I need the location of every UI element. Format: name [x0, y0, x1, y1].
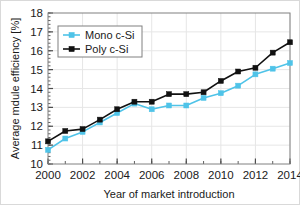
- y-tick-label: 13: [30, 101, 43, 113]
- data-point: [201, 90, 206, 95]
- x-tick-label: 2004: [104, 169, 130, 181]
- data-point: [63, 128, 68, 133]
- data-point: [132, 99, 137, 104]
- x-tick-label: 2002: [70, 169, 96, 181]
- data-point: [236, 69, 241, 74]
- x-tick-label: 2008: [173, 169, 199, 181]
- y-axis-tick-labels: 101112131415161718: [30, 7, 43, 170]
- data-point: [253, 65, 258, 70]
- data-point: [115, 107, 120, 112]
- data-point: [236, 83, 241, 88]
- chart-legend: Mono c-SiPoly c-Si: [58, 26, 142, 57]
- data-point: [184, 92, 189, 97]
- data-point: [288, 61, 293, 66]
- data-point: [270, 50, 275, 55]
- data-point: [167, 92, 172, 97]
- data-point: [46, 139, 51, 144]
- data-point: [184, 103, 189, 108]
- data-point: [201, 95, 206, 100]
- data-point: [167, 103, 172, 108]
- data-point: [288, 40, 293, 45]
- y-tick-label: 16: [30, 45, 43, 57]
- legend-swatch-marker: [69, 32, 74, 37]
- x-tick-label: 2000: [35, 169, 61, 181]
- data-point: [97, 117, 102, 122]
- x-axis-tick-labels: 20002002200420062008201020122014: [35, 169, 300, 181]
- x-tick-label: 2006: [139, 169, 165, 181]
- chart-figure: 101112131415161718 200020022004200620082…: [0, 0, 300, 205]
- y-tick-label: 14: [30, 83, 43, 95]
- legend-label: Poly c-Si: [85, 43, 128, 55]
- y-tick-label: 11: [31, 139, 43, 151]
- x-tick-label: 2010: [208, 169, 234, 181]
- data-point: [63, 136, 68, 141]
- data-point: [149, 99, 154, 104]
- data-point: [46, 147, 51, 152]
- y-axis-title: Average mdule efficiency [%]: [9, 18, 21, 159]
- y-tick-label: 17: [30, 26, 43, 38]
- data-point: [253, 72, 258, 77]
- data-point: [80, 127, 85, 132]
- y-tick-label: 12: [30, 120, 43, 132]
- data-point: [218, 78, 223, 83]
- legend-label: Mono c-Si: [85, 29, 135, 41]
- legend-swatch-marker: [69, 46, 74, 51]
- data-point: [270, 66, 275, 71]
- data-point: [149, 107, 154, 112]
- y-tick-label: 18: [30, 7, 43, 19]
- y-tick-label: 15: [30, 64, 43, 76]
- x-tick-label: 2012: [243, 169, 269, 181]
- efficiency-line-chart: 101112131415161718 200020022004200620082…: [1, 1, 300, 205]
- x-axis-title: Year of market introduction: [103, 188, 234, 200]
- x-tick-label: 2014: [277, 169, 300, 181]
- data-point: [218, 91, 223, 96]
